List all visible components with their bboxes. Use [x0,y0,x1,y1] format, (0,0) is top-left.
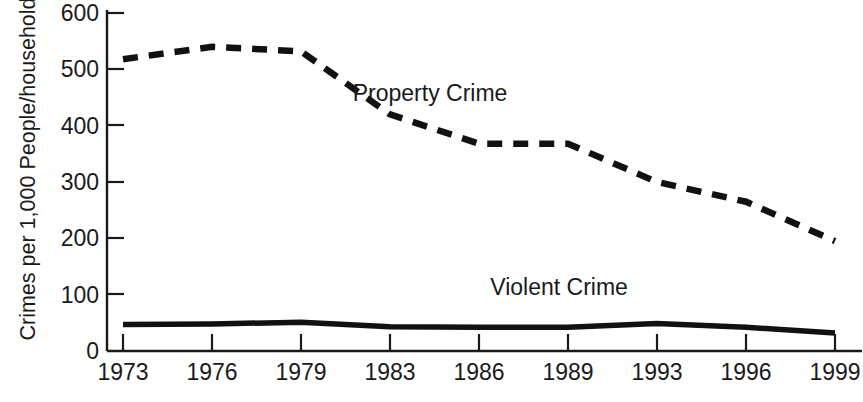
x-tick-label: 1976 [186,359,237,386]
chart-canvas [0,0,863,402]
x-tick-label: 1989 [542,359,593,386]
x-tick-label: 1993 [631,359,682,386]
y-tick-label: 500 [61,56,99,83]
x-tick-label: 1996 [720,359,771,386]
property-crime-series-line [123,47,835,241]
x-tick-label: 1999 [809,359,860,386]
series-annotation-violent-crime: Violent Crime [490,274,628,301]
y-tick-label: 100 [61,281,99,308]
x-tick-label: 1973 [97,359,148,386]
x-axis-ticks [123,334,835,351]
y-tick-label: 600 [61,0,99,27]
series-annotation-property-crime: Property Crime [353,80,508,107]
crime-rate-line-chart: Crimes per 1,000 People/households [0,0,863,402]
x-tick-label: 1979 [275,359,326,386]
y-tick-label: 200 [61,225,99,252]
y-axis-ticks [107,13,124,294]
y-tick-label: 400 [61,112,99,139]
axis-lines [107,10,862,351]
x-tick-label: 1983 [364,359,415,386]
x-tick-label: 1986 [453,359,504,386]
y-tick-label: 300 [61,169,99,196]
violent-crime-series-line [123,322,835,333]
